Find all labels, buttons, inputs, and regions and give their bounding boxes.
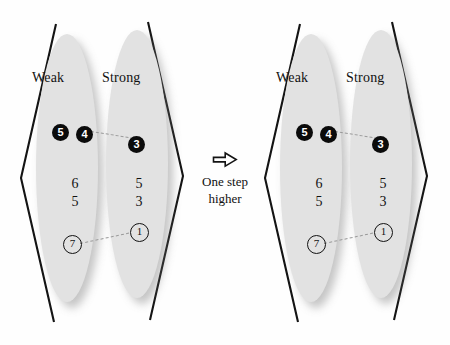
filled-circle-3: 3	[372, 136, 389, 153]
column-title-strong: Strong	[102, 70, 172, 86]
ring-number-7: 7	[63, 235, 82, 254]
plain-number-strong-2: 3	[130, 194, 148, 210]
plain-number-strong-1: 5	[374, 176, 392, 192]
filled-circle-4: 4	[320, 126, 337, 143]
filled-circle-3: 3	[128, 136, 145, 153]
plain-number-strong-2: 3	[374, 194, 392, 210]
plain-number-weak-2: 5	[66, 194, 84, 210]
plain-number-weak-2: 5	[310, 194, 328, 210]
ring-number-7: 7	[307, 235, 326, 254]
plain-number-weak-1: 6	[66, 176, 84, 192]
panel-after: Weak Strong 5 4 6 5 7 3 5 3 1	[252, 0, 442, 345]
column-title-weak: Weak	[276, 70, 346, 86]
plain-number-weak-1: 6	[310, 176, 328, 192]
filled-circle-4: 4	[76, 126, 93, 143]
column-title-weak: Weak	[32, 70, 102, 86]
panel-before: Weak Strong 5 4 6 5 7 3 5 3 1	[8, 0, 198, 345]
filled-circle-5: 5	[296, 124, 313, 141]
ring-number-1: 1	[374, 223, 393, 242]
filled-circle-5: 5	[52, 124, 69, 141]
figure-canvas: Weak Strong 5 4 6 5 7 3 5 3 1 One step h…	[0, 0, 450, 345]
ring-number-1: 1	[130, 223, 149, 242]
plain-number-strong-1: 5	[130, 176, 148, 192]
hollow-right-arrow-icon	[212, 151, 238, 168]
column-title-strong: Strong	[346, 70, 416, 86]
